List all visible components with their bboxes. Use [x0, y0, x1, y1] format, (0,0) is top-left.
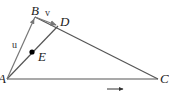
- triangle-diagram: B v D u E A C: [0, 0, 169, 94]
- label-u: u: [12, 39, 17, 50]
- vector-v-arrow: [35, 17, 56, 25]
- label-b: B: [31, 3, 39, 18]
- label-c: C: [160, 71, 169, 86]
- label-a: A: [0, 71, 6, 86]
- segment-bc: [35, 17, 158, 79]
- label-e: E: [37, 49, 46, 64]
- label-d: D: [59, 14, 70, 29]
- label-v: v: [45, 7, 50, 18]
- point-e-dot: [29, 49, 34, 54]
